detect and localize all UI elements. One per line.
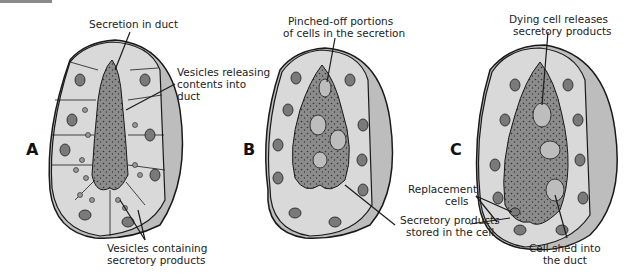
label-pinched-off-1: Pinched-off portions bbox=[288, 15, 393, 27]
panel-letter-a: A bbox=[26, 140, 38, 159]
label-secretion-in-duct: Secretion in duct bbox=[89, 18, 178, 30]
panel-b-gland bbox=[266, 48, 393, 238]
label-cell-shed-2: the duct bbox=[543, 254, 587, 266]
label-dying-cell-2: secretory products bbox=[513, 25, 612, 37]
label-replacement-cells-1: Replacement bbox=[408, 183, 477, 195]
label-cell-shed-1: Cell shed into bbox=[529, 242, 601, 254]
label-vesicles-releasing-3: duct bbox=[177, 90, 200, 102]
gland-diagram bbox=[0, 0, 640, 277]
label-secretory-stored-1: Secretory products bbox=[400, 214, 500, 226]
label-vesicles-releasing-2: contents into bbox=[177, 78, 246, 90]
panel-letter-c: C bbox=[450, 140, 462, 159]
label-pinched-off-2: of cells in the secretion bbox=[283, 27, 405, 39]
panel-letter-b: B bbox=[243, 140, 255, 159]
label-vesicles-releasing-1: Vesicles releasing bbox=[177, 66, 270, 78]
label-secretory-stored-2: stored in the cell bbox=[406, 226, 494, 238]
label-dying-cell-1: Dying cell releases bbox=[509, 13, 608, 25]
label-replacement-cells-2: cells bbox=[445, 195, 469, 207]
label-vesicles-containing-2: secretory products bbox=[107, 254, 206, 266]
label-vesicles-containing-1: Vesicles containing bbox=[107, 242, 207, 254]
panel-a-gland bbox=[49, 40, 182, 238]
